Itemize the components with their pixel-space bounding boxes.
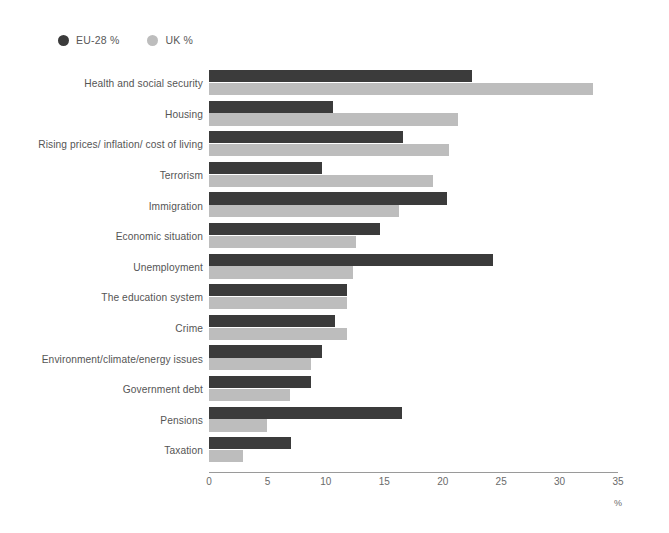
bar-uk xyxy=(209,389,290,401)
bar-chart: EU-28 % UK % Health and social securityH… xyxy=(0,0,669,533)
bar-row: Government debt xyxy=(0,374,669,405)
bar-eu xyxy=(209,192,447,204)
category-label: Terrorism xyxy=(160,170,203,181)
category-label: Taxation xyxy=(164,445,203,456)
bar-uk xyxy=(209,144,449,156)
legend-item-uk: UK % xyxy=(147,34,193,46)
bar-group xyxy=(209,192,669,217)
bar-group xyxy=(209,407,669,432)
category-label: The education system xyxy=(101,292,203,303)
chart-legend: EU-28 % UK % xyxy=(58,31,193,49)
bar-eu xyxy=(209,315,335,327)
bar-group xyxy=(209,131,669,156)
category-label: Pensions xyxy=(160,414,203,425)
bar-eu xyxy=(209,284,347,296)
bar-uk xyxy=(209,83,593,95)
bar-eu xyxy=(209,131,403,143)
bar-eu xyxy=(209,345,322,357)
legend-item-eu: EU-28 % xyxy=(58,34,119,46)
x-tick-label: 15 xyxy=(379,476,390,487)
bar-row: Health and social security xyxy=(0,68,669,99)
bar-uk xyxy=(209,297,347,309)
bar-uk xyxy=(209,419,267,431)
x-tick-label: 30 xyxy=(554,476,565,487)
bar-rows: Health and social securityHousingRising … xyxy=(0,68,669,466)
x-tick-label: 20 xyxy=(437,476,448,487)
bar-eu xyxy=(209,376,311,388)
category-label: Housing xyxy=(165,108,203,119)
category-label: Economic situation xyxy=(116,231,203,242)
bar-group xyxy=(209,376,669,401)
x-tick-label: 0 xyxy=(206,476,212,487)
x-tick-label: 5 xyxy=(265,476,271,487)
bar-group xyxy=(209,437,669,462)
bar-group xyxy=(209,162,669,187)
category-label: Rising prices/ inflation/ cost of living xyxy=(38,139,203,150)
bar-row: Economic situation xyxy=(0,221,669,252)
legend-swatch-uk-icon xyxy=(147,35,158,46)
bar-group xyxy=(209,315,669,340)
bar-row: Immigration xyxy=(0,190,669,221)
category-label: Immigration xyxy=(149,200,203,211)
category-label: Government debt xyxy=(123,384,203,395)
bar-uk xyxy=(209,205,399,217)
bar-uk xyxy=(209,175,433,187)
bar-row: Taxation xyxy=(0,435,669,466)
bar-uk xyxy=(209,450,243,462)
bar-group xyxy=(209,223,669,248)
bar-group xyxy=(209,284,669,309)
x-tick-label: 10 xyxy=(320,476,331,487)
category-label: Unemployment xyxy=(133,261,203,272)
plot-area: Health and social securityHousingRising … xyxy=(0,68,669,473)
bar-eu xyxy=(209,70,472,82)
bar-group xyxy=(209,254,669,279)
legend-label-uk: UK % xyxy=(165,34,193,46)
bar-row: Rising prices/ inflation/ cost of living xyxy=(0,129,669,160)
bar-eu xyxy=(209,254,493,266)
bar-row: The education system xyxy=(0,282,669,313)
bar-row: Housing xyxy=(0,99,669,130)
bar-uk xyxy=(209,113,458,125)
category-label: Crime xyxy=(175,323,203,334)
x-axis-line xyxy=(209,472,618,473)
bar-row: Environment/climate/energy issues xyxy=(0,343,669,374)
bar-eu xyxy=(209,407,402,419)
x-axis-unit-label: % xyxy=(614,498,622,508)
bar-row: Crime xyxy=(0,313,669,344)
x-tick-label: 25 xyxy=(496,476,507,487)
bar-eu xyxy=(209,162,322,174)
bar-row: Pensions xyxy=(0,405,669,436)
legend-swatch-eu-icon xyxy=(58,35,69,46)
bar-group xyxy=(209,101,669,126)
x-axis-ticks: 05101520253035 xyxy=(0,476,669,492)
bar-group xyxy=(209,345,669,370)
bar-group xyxy=(209,70,669,95)
legend-label-eu: EU-28 % xyxy=(76,34,119,46)
bar-uk xyxy=(209,236,356,248)
bar-row: Terrorism xyxy=(0,160,669,191)
bar-row: Unemployment xyxy=(0,252,669,283)
bar-uk xyxy=(209,358,311,370)
bar-uk xyxy=(209,328,347,340)
bar-eu xyxy=(209,437,291,449)
category-label: Environment/climate/energy issues xyxy=(42,353,203,364)
bar-eu xyxy=(209,101,333,113)
bar-uk xyxy=(209,266,353,278)
bar-eu xyxy=(209,223,380,235)
category-label: Health and social security xyxy=(84,78,203,89)
x-tick-label: 35 xyxy=(612,476,623,487)
